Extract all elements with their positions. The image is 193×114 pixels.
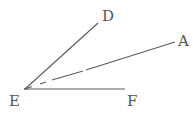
ray-ed (25, 23, 98, 89)
ray-ea (25, 42, 175, 89)
label-d: D (102, 7, 114, 25)
geometry-diagram: D A E F (0, 0, 193, 114)
label-f: F (127, 92, 137, 110)
label-e: E (9, 92, 20, 110)
label-a: A (177, 32, 189, 50)
vertex-e-dot (24, 88, 26, 90)
